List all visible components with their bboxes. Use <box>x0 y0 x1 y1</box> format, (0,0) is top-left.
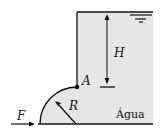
hinge-point-a <box>75 85 80 90</box>
depth-label: H <box>113 46 125 60</box>
radius-label: R <box>68 99 78 113</box>
quarter-circle-gate-diagram: H A R F Água <box>0 0 161 134</box>
hinge-label: A <box>81 74 91 88</box>
force-label: F <box>16 109 26 123</box>
fluid-label: Água <box>115 107 145 121</box>
force-arrowhead-icon <box>29 122 35 127</box>
